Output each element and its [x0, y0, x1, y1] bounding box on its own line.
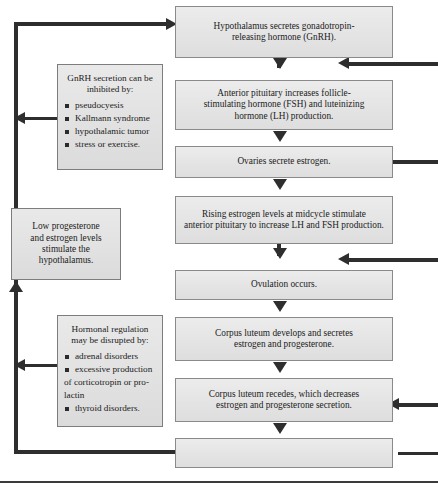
feedback-loop-top-line — [14, 22, 168, 26]
right-connector-midcycle-arrowhead — [338, 253, 349, 265]
flow-step-rising-estrogen: Rising estrogen levels at midcycle stimu… — [175, 196, 393, 244]
flow-step-line: Ovulation occurs. — [251, 279, 317, 290]
flow-arrow-6 — [273, 362, 287, 373]
flow-step-line: Hypothalamus secretes gonadotropin- — [214, 21, 355, 32]
flow-step-line: Corpus luteum develops and secretes — [215, 328, 353, 339]
flow-arrow-7 — [273, 423, 287, 434]
list-item-continuation: lactin — [64, 390, 156, 402]
flow-step-anterior-pituitary: Anterior pituitary increases follicle- s… — [175, 80, 393, 130]
flow-step-corpus-luteum-develops: Corpus luteum develops and secretes estr… — [175, 317, 393, 361]
list-item: hypothalamic tumor — [64, 126, 156, 138]
flow-arrow-3 — [273, 179, 287, 190]
flow-step-hypothalamus: Hypothalamus secretes gonadotropin- rele… — [175, 6, 393, 58]
note-heading: Hormonal regulation may be disrupted by: — [71, 324, 148, 347]
disruption-note-connector-line — [24, 364, 57, 367]
flow-step-final — [175, 438, 393, 468]
flow-step-line: releasing hormone (GnRH). — [232, 32, 336, 43]
footer-divider — [0, 481, 438, 483]
flow-step-line: anterior pituitary to increase LH and FS… — [184, 220, 384, 231]
list-item-continuation: of corticotropin or pro- — [64, 377, 156, 389]
list-item: Kallmann syndrome — [64, 113, 156, 125]
gnrh-note-arrowhead — [14, 112, 25, 124]
flow-arrow-5 — [273, 301, 287, 312]
flow-step-line: stimulating hormone (FSH) and luteinizin… — [204, 99, 365, 110]
flow-arrow-2 — [273, 131, 287, 142]
list-item: adrenal disorders — [64, 351, 156, 363]
right-connector-upper-arrowhead — [338, 57, 349, 69]
right-connector-line-upper — [348, 62, 438, 66]
list-item: pseudocyesis — [64, 100, 156, 112]
right-connector-line-luteum — [398, 403, 438, 407]
list-item: thyroid disorders. — [64, 403, 156, 415]
gnrh-note-connector-line — [24, 117, 57, 120]
feedback-loop-up-arrowhead — [9, 281, 23, 292]
flow-step-line: hormone (LH) production. — [235, 111, 334, 122]
right-connector-line-midcycle — [348, 258, 438, 262]
flow-connector-4 — [277, 244, 281, 256]
flow-step-line: Anterior pituitary increases follicle- — [217, 88, 350, 99]
feedback-loop-bottom-line — [14, 450, 182, 454]
note-bullet-list: adrenal disorders excessive production o… — [64, 351, 156, 416]
right-connector-line-final — [398, 452, 438, 455]
flow-step-line: estrogen and progesterone secretion. — [216, 400, 352, 411]
flowchart-canvas: Hypothalamus secretes gonadotropin- rele… — [0, 0, 438, 488]
flow-step-corpus-luteum-recedes: Corpus luteum recedes, which decreases e… — [175, 378, 393, 422]
flow-step-line: Corpus luteum recedes, which decreases — [209, 389, 360, 400]
note-hormonal-disruption: Hormonal regulation may be disrupted by:… — [57, 315, 163, 427]
flow-step-line: estrogen and progesterone. — [234, 339, 334, 350]
note-low-progesterone: Low progesterone and estrogen levels sti… — [11, 208, 121, 280]
list-item: excessive production — [64, 364, 156, 376]
flow-step-line: Rising estrogen levels at midcycle stimu… — [202, 209, 366, 220]
note-bullet-list: pseudocyesis Kallmann syndrome hypothala… — [64, 100, 156, 152]
note-heading: GnRH secretion can be inhibited by: — [67, 73, 152, 96]
note-line: Low progesterone — [32, 221, 99, 232]
flow-step-ovaries-estrogen: Ovaries secrete estrogen. — [175, 146, 393, 178]
flow-step-ovulation: Ovulation occurs. — [175, 270, 393, 300]
flow-step-line: Ovaries secrete estrogen. — [237, 156, 330, 167]
note-line: hypothalamus. — [39, 255, 93, 266]
note-line: stimulate the — [42, 244, 90, 255]
disruption-note-arrowhead — [14, 359, 25, 371]
note-gnrh-inhibition: GnRH secretion can be inhibited by: pseu… — [57, 64, 163, 170]
note-line: and estrogen levels — [30, 233, 101, 244]
list-item: stress or exercise. — [64, 139, 156, 151]
flow-connector-1 — [277, 58, 281, 68]
